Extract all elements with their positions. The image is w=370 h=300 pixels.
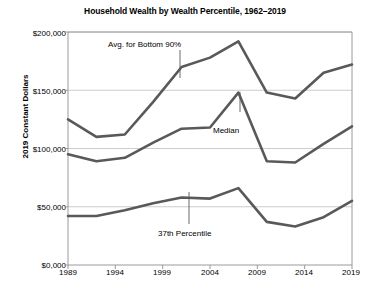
series-lines (68, 41, 352, 226)
chart-container: Household Wealth by Wealth Percentile, 1… (0, 0, 370, 300)
plot-area (0, 0, 370, 300)
x-axis-ticks (68, 265, 352, 269)
y-axis-ticks (64, 32, 68, 265)
